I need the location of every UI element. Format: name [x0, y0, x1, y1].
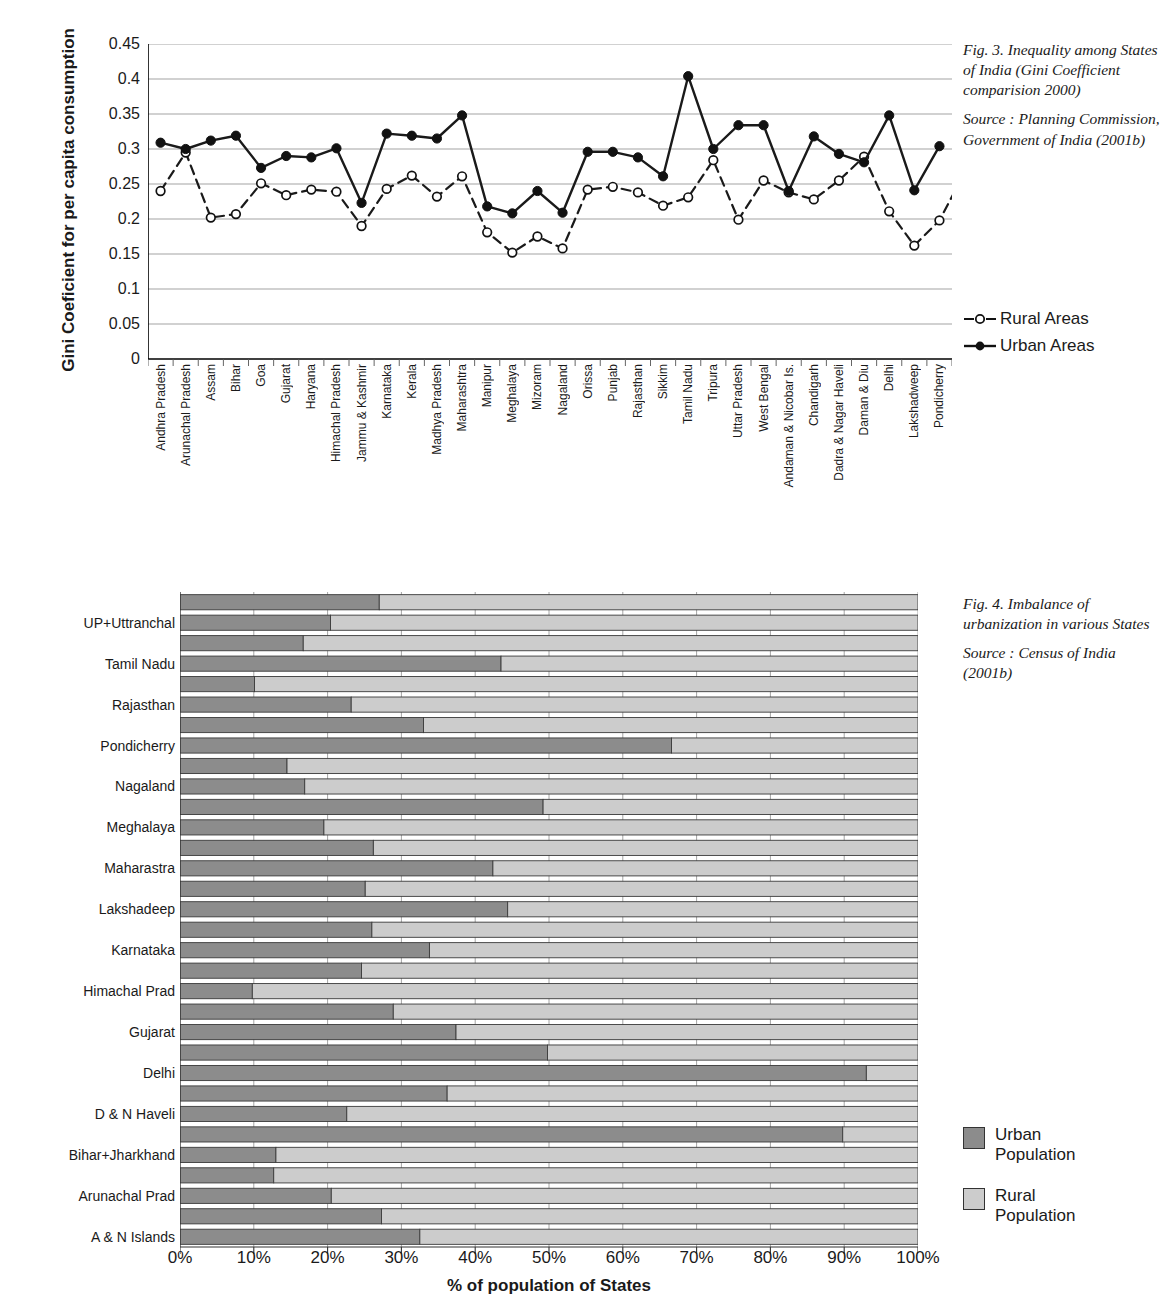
stacked-bar-row [180, 677, 918, 692]
fig4-x-axis-title: % of population of States [180, 1276, 918, 1296]
fig3-plot-wrapper: 00.050.10.150.20.250.30.350.40.45 [92, 44, 952, 359]
fig4-x-tick-label: 30% [384, 1248, 418, 1268]
rural-series-marker-icon [963, 311, 997, 327]
urban-series-marker-icon [963, 338, 997, 354]
fig4-category-label: Meghalaya [107, 819, 176, 835]
stacked-bar-row [180, 943, 918, 958]
fig3-y-tick-label: 0 [131, 350, 140, 368]
fig3-x-tick-label: Tamil Nadu [681, 364, 695, 424]
fig3-x-tick-label: Lakshadweep [907, 364, 921, 438]
fig3-legend-item-urban-areas: Urban Areas [963, 332, 1163, 359]
stacked-bar-row [180, 799, 918, 814]
urban-population-swatch-icon [963, 1127, 985, 1149]
fig4-caption: Fig. 4. Imbalance of urbanization in var… [963, 594, 1163, 693]
fig3-x-tick-label: Manipur [480, 364, 494, 407]
fig3-legend-label: Rural Areas [1000, 309, 1089, 329]
fig4-category-label: Maharastra [104, 860, 175, 876]
fig4-caption-title: Fig. 4. Imbalance of urbanization in var… [963, 594, 1163, 634]
fig3-y-tick-label: 0.35 [109, 105, 140, 123]
stacked-bar-row [180, 1229, 918, 1244]
stacked-bar-row [180, 963, 918, 978]
fig4-x-axis-ticks: 0%10%20%30%40%50%60%70%80%90%100% [120, 1248, 980, 1272]
fig4-category-label: Gujarat [129, 1024, 175, 1040]
fig4-category-label: Pondicherry [100, 738, 175, 754]
fig4-category-label: A & N Islands [91, 1229, 175, 1245]
stacked-bar-row [180, 758, 918, 773]
stacked-bar-row [180, 615, 918, 630]
fig3-x-tick-label: Haryana [304, 364, 318, 409]
fig3-x-tick-label: Gujarat [279, 364, 293, 403]
fig3-y-axis-title: Gini Coeficient for per capita consumpti… [56, 40, 82, 360]
stacked-bar-row [180, 1045, 918, 1060]
stacked-bar-row [180, 656, 918, 671]
fig4-x-tick-label: 80% [753, 1248, 787, 1268]
stacked-bar-row [180, 984, 918, 999]
fig4-legend: UrbanPopulationRuralPopulation [963, 1125, 1163, 1247]
fig3-legend-item-rural-areas: Rural Areas [963, 305, 1163, 332]
fig3-x-tick-label: Bihar [229, 364, 243, 392]
fig4-category-label: Tamil Nadu [105, 656, 175, 672]
fig4-category-label: Himachal Prad [83, 983, 175, 999]
stacked-bar-row [180, 1168, 918, 1183]
fig3-x-tick-label: Delhi [882, 364, 896, 391]
fig3-legend-label: Urban Areas [1000, 336, 1095, 356]
stacked-bar-row [180, 840, 918, 855]
fig4-x-tick-label: 40% [458, 1248, 492, 1268]
fig4-legend-item-urban-population: UrbanPopulation [963, 1125, 1163, 1164]
fig3-x-tick-label: Meghalaya [505, 364, 519, 423]
fig3-x-tick-label: Daman & Diu [857, 364, 871, 435]
stacked-bar-row [180, 902, 918, 917]
fig3-x-tick-label: Punjab [606, 364, 620, 401]
fig3-x-tick-label: Assam [204, 364, 218, 401]
fig3-y-tick-label: 0.3 [118, 140, 140, 158]
fig3-x-tick-label: Rajasthan [631, 364, 645, 418]
fig4-legend-item-rural-population: RuralPopulation [963, 1186, 1163, 1225]
fig3-x-tick-label: Sikkim [656, 364, 670, 399]
fig3-x-tick-label: West Bengal [757, 364, 771, 432]
fig3-y-tick-label: 0.05 [109, 315, 140, 333]
fig3-x-tick-label: Tripura [706, 364, 720, 402]
fig3-x-tick-label: Pondicherry [932, 364, 946, 428]
fig3-x-tick-label: Dadra & Nagar Haveli [832, 364, 846, 481]
fig4-x-tick-label: 10% [237, 1248, 271, 1268]
stacked-bar-row [180, 717, 918, 732]
stacked-bar-row [180, 1004, 918, 1019]
stacked-bar-row [180, 820, 918, 835]
fig3-x-axis-labels: Andhra PradeshArunachal PradeshAssamBiha… [148, 364, 968, 494]
fig3-y-tick-label: 0.45 [109, 35, 140, 53]
fig3-x-tick-label: Uttar Pradesh [731, 364, 745, 438]
fig4-category-label: Rajasthan [112, 697, 175, 713]
fig4-category-label: D & N Haveli [95, 1106, 175, 1122]
fig3-y-tick-label: 0.15 [109, 245, 140, 263]
fig4-x-tick-label: 20% [311, 1248, 345, 1268]
fig3-x-tick-label: Madhya Pradesh [430, 364, 444, 455]
fig4-x-tick-label: 100% [896, 1248, 939, 1268]
fig4-x-tick-label: 70% [680, 1248, 714, 1268]
fig3-y-tick-label: 0.2 [118, 210, 140, 228]
fig3-x-tick-label: Kerala [405, 364, 419, 399]
fig3-plot-area [148, 44, 952, 359]
fig3-x-tick-label: Karnataka [380, 364, 394, 419]
stacked-bar-row [180, 881, 918, 896]
fig4-plot-area [180, 592, 918, 1247]
fig3-x-tick-label: Chandigarh [807, 364, 821, 426]
fig3-y-axis-ticks: 00.050.10.150.20.250.30.350.40.45 [92, 44, 144, 359]
fig3-x-tick-label: Mizoram [530, 364, 544, 410]
stacked-bar-row [180, 922, 918, 937]
fig3-caption-source: Source : Planning Commission, Government… [963, 109, 1163, 149]
stacked-bar-row [180, 1065, 918, 1080]
stacked-bar-row [180, 1127, 918, 1142]
fig4-category-label: Delhi [143, 1065, 175, 1081]
fig4-legend-label: UrbanPopulation [995, 1125, 1075, 1164]
fig4-x-tick-label: 90% [827, 1248, 861, 1268]
stacked-bar-row [180, 738, 918, 753]
fig3-x-tick-label: Arunachal Pradesh [179, 364, 193, 466]
stacked-bar-row [180, 1086, 918, 1101]
stacked-bar-row [180, 779, 918, 794]
fig3-x-tick-label: Orissa [581, 364, 595, 399]
fig4-category-label: Arunachal Prad [78, 1188, 175, 1204]
stacked-bar-row [180, 1106, 918, 1121]
stacked-bar-row [180, 1025, 918, 1040]
fig4-category-label: Nagaland [115, 778, 175, 794]
fig3-x-tick-label: Andhra Pradesh [154, 364, 168, 451]
